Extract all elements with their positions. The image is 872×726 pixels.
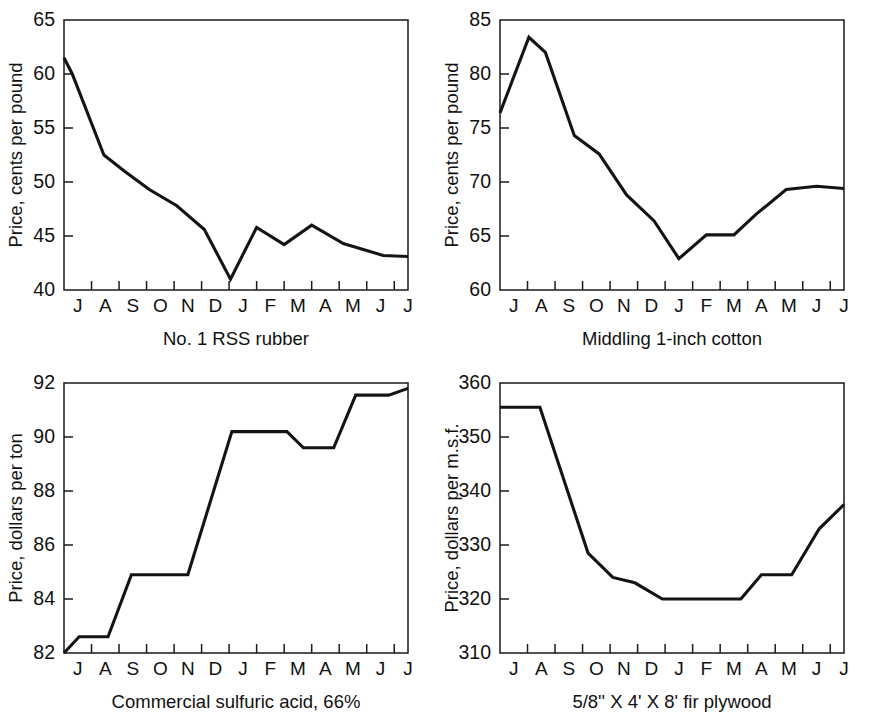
- data-series-line: [500, 407, 844, 599]
- x-tick-label-month: N: [617, 295, 631, 316]
- y-axis: 606570758085: [469, 8, 509, 300]
- chart-caption: Commercial sulfuric acid, 66%: [112, 691, 361, 712]
- x-axis: JASONDJFMAMJJ: [73, 281, 413, 316]
- x-tick-label-month: J: [812, 295, 822, 316]
- y-tick-label: 80: [469, 62, 491, 84]
- y-tick-label: 45: [33, 224, 55, 246]
- y-tick-label: 86: [33, 533, 55, 555]
- y-tick-label: 60: [33, 62, 55, 84]
- x-tick-label-month: M: [781, 658, 797, 679]
- x-tick-label-month: S: [562, 295, 575, 316]
- y-axis: 310320330340350360: [458, 371, 509, 663]
- x-tick-label-month: F: [265, 295, 277, 316]
- y-axis: 828486889092: [33, 371, 73, 663]
- x-tick-label-month: A: [99, 658, 112, 679]
- x-tick-label-month: A: [755, 658, 768, 679]
- y-tick-label: 92: [33, 371, 55, 393]
- x-tick-label-month: J: [376, 295, 386, 316]
- y-axis-label: Price, dollars per m.s.f.: [441, 423, 462, 612]
- x-tick-label-month: J: [509, 658, 519, 679]
- y-tick-label: 50: [33, 170, 55, 192]
- y-tick-label: 65: [469, 224, 491, 246]
- x-tick-label-month: O: [153, 295, 168, 316]
- y-tick-label: 82: [33, 641, 55, 663]
- x-tick-label-month: J: [238, 295, 248, 316]
- x-tick-label-month: D: [644, 295, 658, 316]
- x-tick-label-month: J: [674, 658, 684, 679]
- x-tick-label-month: S: [562, 658, 575, 679]
- x-tick-label-month: N: [181, 658, 195, 679]
- x-tick-label-month: A: [99, 295, 112, 316]
- x-tick-label-month: M: [290, 295, 306, 316]
- y-tick-label: 90: [33, 425, 55, 447]
- x-tick-label-month: J: [73, 295, 83, 316]
- chart-panel-fir-plywood: 310320330340350360JASONDJFMAMJJPrice, do…: [436, 363, 872, 726]
- x-tick-label-month: F: [701, 658, 713, 679]
- plot-frame: [500, 383, 844, 653]
- y-tick-label: 60: [469, 278, 491, 300]
- y-tick-label: 40: [33, 278, 55, 300]
- x-tick-label-month: M: [726, 295, 742, 316]
- x-tick-label-month: N: [617, 658, 631, 679]
- x-tick-label-month: J: [812, 658, 822, 679]
- y-axis-label: Price, cents per pound: [441, 62, 462, 247]
- y-tick-label: 320: [458, 587, 491, 609]
- x-tick-label-month: O: [589, 295, 604, 316]
- y-tick-label: 75: [469, 116, 491, 138]
- y-tick-label: 360: [458, 371, 491, 393]
- y-tick-label: 65: [33, 8, 55, 30]
- x-tick-label-month: D: [208, 658, 222, 679]
- y-tick-label: 85: [469, 8, 491, 30]
- x-tick-label-month: F: [265, 658, 277, 679]
- data-series-line: [64, 58, 408, 279]
- x-tick-label-month: D: [208, 295, 222, 316]
- x-tick-label-month: J: [376, 658, 386, 679]
- y-tick-label: 55: [33, 116, 55, 138]
- x-axis: JASONDJFMAMJJ: [509, 644, 849, 679]
- chart-caption: 5/8'' X 4' X 8' fir plywood: [572, 691, 771, 712]
- x-tick-label-month: J: [238, 658, 248, 679]
- chart-panel-sulfuric-acid: 828486889092JASONDJFMAMJJPrice, dollars …: [0, 363, 436, 726]
- chart-sulfuric-acid: 828486889092JASONDJFMAMJJPrice, dollars …: [0, 363, 436, 726]
- chart-caption: No. 1 RSS rubber: [163, 328, 309, 349]
- chart-cotton: 606570758085JASONDJFMAMJJPrice, cents pe…: [436, 0, 872, 363]
- chart-caption: Middling 1-inch cotton: [582, 328, 762, 349]
- x-tick-label-month: S: [126, 658, 139, 679]
- y-tick-label: 350: [458, 425, 491, 447]
- x-tick-label-month: O: [589, 658, 604, 679]
- chart-panel-cotton: 606570758085JASONDJFMAMJJPrice, cents pe…: [436, 0, 872, 363]
- y-tick-label: 70: [469, 170, 491, 192]
- y-tick-label: 84: [33, 587, 55, 609]
- y-tick-label: 330: [458, 533, 491, 555]
- data-series-line: [500, 37, 844, 258]
- y-axis-label: Price, dollars per ton: [5, 433, 26, 603]
- x-tick-label-month: S: [126, 295, 139, 316]
- x-axis: JASONDJFMAMJJ: [509, 281, 849, 316]
- x-tick-label-month: M: [781, 295, 797, 316]
- chart-panel-rubber: 404550556065JASONDJFMAMJJPrice, cents pe…: [0, 0, 436, 363]
- x-tick-label-month: M: [345, 658, 361, 679]
- x-tick-label-month: O: [153, 658, 168, 679]
- y-axis-label: Price, cents per pound: [5, 62, 26, 247]
- x-tick-label-month: N: [181, 295, 195, 316]
- x-tick-label-month: J: [403, 658, 413, 679]
- price-charts-figure: 404550556065JASONDJFMAMJJPrice, cents pe…: [0, 0, 872, 726]
- x-tick-label-month: F: [701, 295, 713, 316]
- x-tick-label-month: J: [403, 295, 413, 316]
- y-axis: 404550556065: [33, 8, 73, 300]
- x-tick-label-month: A: [319, 295, 332, 316]
- x-tick-label-month: J: [839, 658, 849, 679]
- x-tick-label-month: M: [290, 658, 306, 679]
- x-tick-label-month: J: [839, 295, 849, 316]
- chart-rubber: 404550556065JASONDJFMAMJJPrice, cents pe…: [0, 0, 436, 363]
- data-series-line: [64, 388, 408, 653]
- x-tick-label-month: J: [509, 295, 519, 316]
- x-tick-label-month: A: [319, 658, 332, 679]
- x-tick-label-month: D: [644, 658, 658, 679]
- y-tick-label: 310: [458, 641, 491, 663]
- x-tick-label-month: A: [535, 658, 548, 679]
- chart-fir-plywood: 310320330340350360JASONDJFMAMJJPrice, do…: [436, 363, 872, 726]
- x-tick-label-month: M: [345, 295, 361, 316]
- y-tick-label: 340: [458, 479, 491, 501]
- x-tick-label-month: J: [674, 295, 684, 316]
